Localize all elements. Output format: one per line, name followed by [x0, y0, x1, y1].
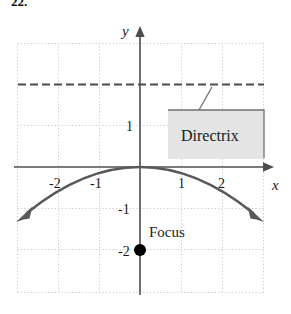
- y-tick-pos-1: 1: [126, 119, 133, 134]
- x-axis-label: x: [271, 177, 279, 193]
- x-tick-neg-2: -2: [49, 176, 61, 191]
- focus-annotation: Focus: [134, 224, 185, 256]
- y-tick-neg-1: -1: [118, 202, 130, 217]
- y-tick-neg-2: -2: [118, 244, 130, 259]
- axes: [14, 26, 274, 295]
- y-axis-label: y: [120, 23, 129, 39]
- focus-label: Focus: [149, 224, 185, 240]
- x-axis-arrow-icon: [263, 162, 274, 171]
- x-tick-pos-1: 1: [178, 176, 185, 191]
- coordinate-plot: Directrix Focus -2 -1 1 2 1 -1 -2 y x: [0, 0, 291, 314]
- focus-point-marker: [134, 244, 146, 256]
- x-tick-neg-1: -1: [90, 176, 102, 191]
- directrix-callout: Directrix: [168, 87, 264, 159]
- directrix-label: Directrix: [181, 127, 239, 144]
- y-axis-arrow-icon: [135, 26, 144, 37]
- directrix-leader-line: [199, 87, 212, 110]
- y-tick-labels: 1 -1 -2: [118, 119, 133, 259]
- x-tick-pos-2: 2: [218, 176, 225, 191]
- parabola-figure: 22.: [0, 0, 291, 314]
